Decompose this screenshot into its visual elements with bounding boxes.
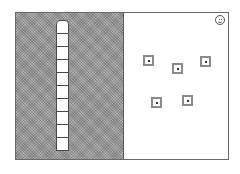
column-cell: [56, 60, 69, 73]
column-cell: [56, 125, 69, 138]
column-cell: [56, 86, 69, 99]
play-area[interactable]: [124, 13, 228, 159]
target-dot: [177, 68, 179, 70]
target-square[interactable]: [151, 97, 162, 108]
shaded-panel: [16, 13, 124, 159]
target-square[interactable]: [182, 95, 193, 106]
column-cell: [56, 138, 69, 151]
target-dot: [187, 100, 189, 102]
smiley-icon[interactable]: [215, 15, 225, 25]
target-dot: [148, 60, 150, 62]
column-cell: [56, 112, 69, 125]
target-dot: [205, 61, 207, 63]
column-cell: [56, 99, 69, 112]
target-dot: [156, 102, 158, 104]
target-square[interactable]: [172, 63, 183, 74]
column-cell: [56, 47, 69, 60]
target-square[interactable]: [143, 55, 154, 66]
cell-column: [56, 20, 69, 151]
game-board: [15, 12, 229, 160]
column-cell: [56, 20, 69, 34]
target-square[interactable]: [200, 56, 211, 67]
column-cell: [56, 34, 69, 47]
smiley-mouth: [218, 20, 222, 23]
column-cell: [56, 73, 69, 86]
